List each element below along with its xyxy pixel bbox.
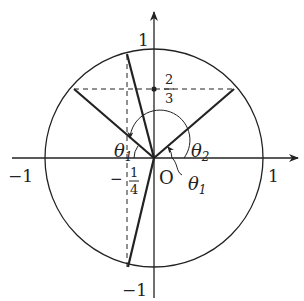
y-tick-1: 1 [138, 30, 149, 50]
point-y-2-3 [151, 86, 156, 91]
svg-text:−: − [110, 170, 123, 188]
theta1-left-label: θ1 [114, 140, 132, 164]
origin-label: O [159, 167, 174, 188]
theta1-right-label: θ1 [188, 173, 206, 197]
svg-text:3: 3 [165, 91, 173, 106]
theta2-label: θ2 [191, 140, 209, 164]
angle-arc-theta1-left [134, 146, 138, 158]
unit-circle-diagram: −1 1 1 −1 O 2 3 − 1 4 θ1 θ2 θ1 [0, 0, 304, 301]
svg-text:4: 4 [130, 182, 138, 197]
svg-text:1: 1 [130, 165, 138, 180]
x-tick-neg-1: −1 [8, 166, 33, 186]
y-tick-neg-1: −1 [122, 280, 147, 300]
angle-arc-theta1-right [168, 147, 172, 158]
x-tick-1: 1 [268, 166, 279, 186]
radius-upper-steep [127, 54, 154, 158]
svg-text:2: 2 [165, 72, 173, 87]
fraction-neg-1-4: − 1 4 [110, 165, 139, 197]
fraction-2-3: 2 3 [164, 72, 174, 106]
